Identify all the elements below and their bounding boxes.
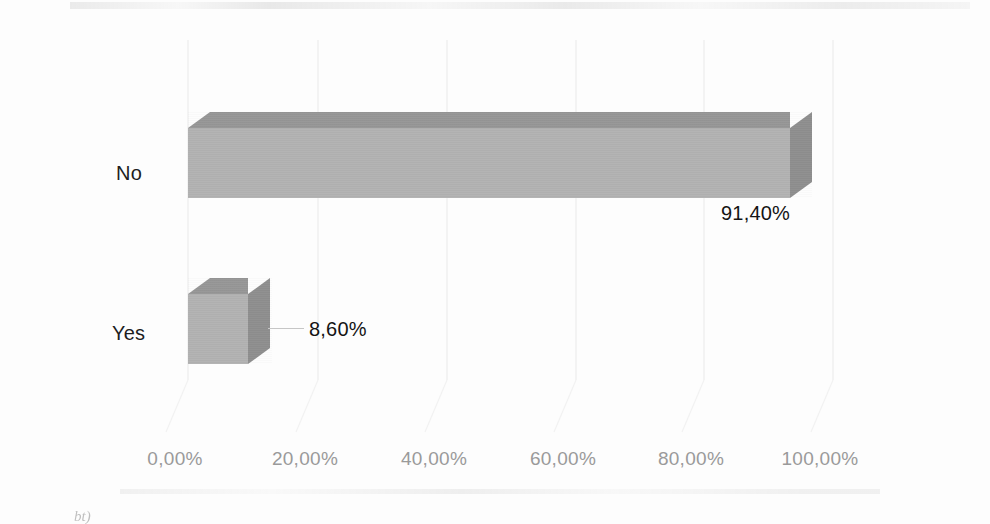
x-tick-label-60: 60,00% <box>530 448 596 470</box>
bar-yes-side-face <box>248 278 270 364</box>
x-tick-label-40: 40,00% <box>401 448 467 470</box>
bar-yes-front-face <box>188 294 248 364</box>
data-label-yes: 8,60% <box>309 318 367 341</box>
data-label-leader-line <box>268 328 304 329</box>
bar-yes-top-face <box>188 278 248 294</box>
chart-container: No Yes 91,40% 8,60% 0,00% 20,00% 40,00% … <box>0 0 990 524</box>
bar-no-front-face <box>188 128 790 198</box>
bar-no-side-face <box>790 112 812 198</box>
scan-bleed-bottom <box>120 489 880 494</box>
x-tick-label-80: 80,00% <box>658 448 724 470</box>
x-tick-label-100: 100,00% <box>781 448 858 470</box>
category-label-no: No <box>116 162 142 185</box>
x-tick-label-20: 20,00% <box>272 448 338 470</box>
category-label-yes: Yes <box>112 322 145 345</box>
caption-sliver: bt) <box>74 508 108 524</box>
bar-no[interactable] <box>188 112 812 198</box>
x-tick-label-0: 0,00% <box>147 448 202 470</box>
data-label-no: 91,40% <box>721 202 790 225</box>
bar-no-top-face <box>188 112 790 128</box>
bar-yes[interactable] <box>188 278 272 364</box>
plot-area: No Yes 91,40% 8,60% 0,00% 20,00% 40,00% … <box>0 0 990 524</box>
